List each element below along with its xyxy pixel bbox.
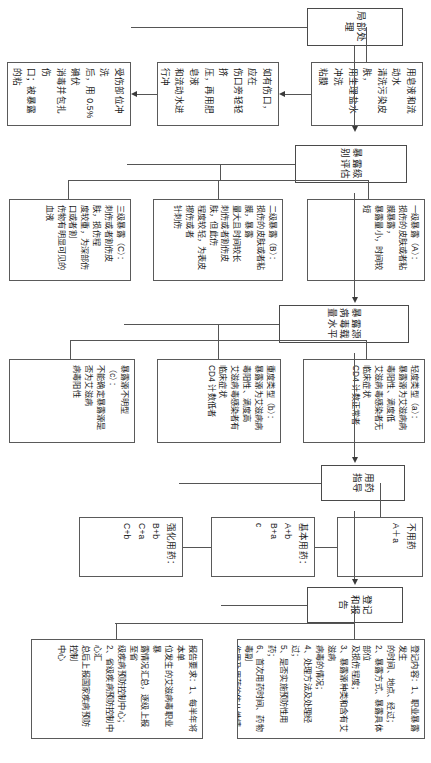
connector-exposure-branch-1 <box>368 180 369 199</box>
connector-exposure-branch-3 <box>68 180 69 199</box>
connector-med-2-3-v <box>183 547 211 548</box>
connector-med-header-stem <box>179 483 321 484</box>
stage-header-local-treatment: 局部处理 <box>307 8 403 46</box>
connector-med-1-2-v <box>315 547 337 548</box>
step-box-medication-3: 强化用药： B+b C+a C+b <box>79 517 183 577</box>
stage-header-registration-report: 登记和报告 <box>307 587 403 623</box>
stage-exposure-level: 暴露级别评估 一级暴露（A）： 损伤的皮肤或者粘膜暴露， 暴露量小，时间较短 二… <box>0 135 431 295</box>
connector-local-header-to-step1 <box>366 27 367 62</box>
connector-local-1-2 <box>285 94 311 95</box>
connector-exposure-branch-2 <box>218 180 219 199</box>
connector-exposure-branch-spine <box>69 180 369 181</box>
step-box-viral-1: 轻度类型（a）： 暴露源为艾滋病病毒阳性、滴度低 艾滋病毒感染者无临床症状 CD… <box>303 359 425 443</box>
arrow-stage-2-3 <box>353 297 359 303</box>
arrow-local-1-2 <box>279 91 285 97</box>
connector-reg-header-stem <box>221 605 307 606</box>
connector-reg-branch-2 <box>116 623 117 639</box>
connector-exposure-header-stem <box>127 164 295 165</box>
connector-viral-header-stem <box>124 324 279 325</box>
stage-header-viral-load: 暴露源病毒载量水平 <box>279 305 409 343</box>
stage-header-medication-guide: 用药指导 <box>321 465 405 501</box>
flowchart-canvas: 局部处理 用皂液和流动水 清洗污染皮肤， 用生理盐水冲洗 粘膜 如有伤口，应在 … <box>0 0 431 763</box>
step-box-report-requirement: 报告要求：1、每半年将本单 位发生的艾滋病毒职业暴 露情况汇总，逐级上报至省 级… <box>31 639 203 739</box>
step-box-exposure-2: 二级暴露（B）： 损伤的皮肤或者粘膜，暴露 量大且时间较长 刺伤或者割伤皮肤，但… <box>153 199 283 281</box>
connector-local-2-3 <box>137 94 157 95</box>
stage-medication-guide: 用药指导 不用药 A＋a 基本用药： A+b B+a c 强化用药： B+b C… <box>0 455 431 577</box>
connector-local-header-stem <box>131 27 307 28</box>
connector-viral-header-to-branch <box>218 324 219 340</box>
stage-header-exposure-level: 暴露级别评估 <box>295 145 407 183</box>
stage-viral-load: 暴露源病毒载量水平 轻度类型（a）： 暴露源为艾滋病病毒阳性、滴度低 艾滋病毒感… <box>0 295 431 455</box>
arrow-local-2-3 <box>131 91 137 97</box>
step-box-local-1: 用皂液和流动水 清洗污染皮肤， 用生理盐水冲洗 粘膜 <box>311 62 423 126</box>
step-box-registration-content: 登记内容：1、职业暴露发生 的时间、地点、经过； 2、暴露方式、暴露具体部位 及… <box>237 639 425 739</box>
connector-viral-branch-spine <box>71 340 367 341</box>
connector-viral-branch-3 <box>70 340 71 359</box>
arrow-stage-1-2 <box>353 126 359 132</box>
connector-med-header-to-box1 <box>380 483 381 517</box>
step-box-local-2: 如有伤口，应在 伤口旁轻轻挤 压，再用肥皂液 和流动水进行冲 洗；禁止进行局 部… <box>157 62 279 126</box>
connector-viral-branch-2 <box>218 340 219 359</box>
step-box-medication-2: 基本用药： A+b B+a c <box>211 517 315 577</box>
connector-reg-spine <box>115 623 355 624</box>
connector-viral-branch-1 <box>366 340 367 359</box>
connector-stage-1-2 <box>354 46 355 126</box>
step-box-medication-1: 不用药 A＋a <box>337 517 423 577</box>
step-box-viral-3: 暴露源不明型（c）： 不能确定暴露源是否为艾滋病 病毒阳性 <box>9 359 135 443</box>
connector-exposure-header-to-branch <box>220 164 221 180</box>
connector-stage-4-5 <box>354 511 355 579</box>
step-box-viral-2: 重度类型（b）： 暴露源为艾滋病病毒阳性、滴度高 艾滋病毒感染者有临床症状 CD… <box>157 359 281 443</box>
connector-stage-3-4 <box>354 353 355 457</box>
arrow-stage-3-4 <box>353 457 359 463</box>
connector-stage-2-3 <box>354 193 355 297</box>
stage-registration-report: 登记和报告 登记内容：1、职业暴露发生 的时间、地点、经过； 2、暴露方式、暴露… <box>0 577 431 763</box>
step-box-local-3: 受伤部位冲洗 后，用 0.5%碘伏 消毒并包扎伤 口；被暴露的粘 膜反复用生理盐… <box>7 62 131 126</box>
connector-reg-header-to-box1 <box>354 605 355 639</box>
step-box-exposure-1: 一级暴露（A）： 损伤的皮肤或者粘膜暴露， 暴露量小，时间较短 <box>307 199 425 281</box>
stage-local-treatment: 局部处理 用皂液和流动水 清洗污染皮肤， 用生理盐水冲洗 粘膜 如有伤口，应在 … <box>0 0 431 135</box>
step-box-exposure-3: 三级暴露（C）： 刺伤或者割伤皮肤，损伤程 度较重，为深部伤口或者割 伤物有明显… <box>9 199 131 281</box>
arrow-stage-4-5 <box>353 579 359 585</box>
